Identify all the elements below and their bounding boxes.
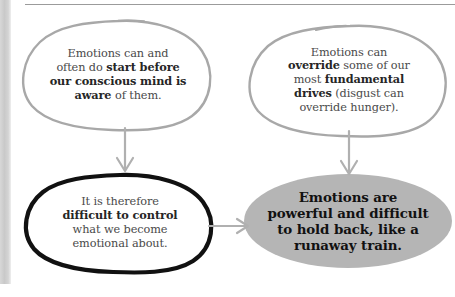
node-bottom-left-text: It is thereforedifficult to controlwhat … (44, 195, 196, 250)
node-top-right[interactable]: Emotions canoverride some of ourmost fun… (246, 22, 452, 138)
node-top-left[interactable]: Emotions can andoften do start beforeour… (20, 18, 216, 132)
node-top-left-text: Emotions can andoften do start beforeour… (38, 47, 198, 102)
page-edge-strip (0, 0, 11, 284)
node-bottom-left[interactable]: It is thereforedifficult to controlwhat … (23, 172, 217, 274)
diagram-canvas: Emotions can andoften do start beforeour… (0, 0, 455, 297)
top-rule-divider (25, 4, 455, 5)
node-bottom-right-text: Emotions arepowerful and difficultto hol… (260, 189, 436, 253)
arrow-down-left (112, 127, 138, 175)
node-top-right-text: Emotions canoverride some of ourmost fun… (270, 46, 428, 115)
node-bottom-right[interactable]: Emotions arepowerful and difficultto hol… (244, 174, 452, 268)
